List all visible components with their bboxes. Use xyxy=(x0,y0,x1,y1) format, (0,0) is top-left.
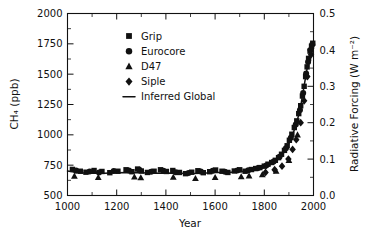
data-point xyxy=(238,173,245,179)
y-tick-label: 1750 xyxy=(37,38,62,49)
plot-frame xyxy=(68,14,314,196)
y-axis-label: CH₄ (ppb) xyxy=(8,79,20,130)
y-axis-right-label: Radiative Forcing (W m⁻²) xyxy=(348,36,360,172)
x-tick-label: 2000 xyxy=(301,201,326,212)
x-axis-tick-labels: 100012001400160018002000 xyxy=(55,201,326,212)
y-tick-label: 1250 xyxy=(37,99,62,110)
inferred-global-curve xyxy=(68,43,314,174)
y-axis-right-tick-labels: 0.00.10.20.30.40.5 xyxy=(320,8,336,201)
series-inferred-global xyxy=(68,43,314,174)
y-tick-label: 2000 xyxy=(37,8,62,19)
legend-label: Grip xyxy=(141,31,162,42)
y-right-tick-label: 0.2 xyxy=(320,117,336,128)
y-tick-label: 1000 xyxy=(37,129,62,140)
y-right-tick-label: 0.4 xyxy=(320,45,336,56)
x-tick-label: 1800 xyxy=(252,201,277,212)
data-point xyxy=(137,174,144,180)
y-right-tick-label: 0.3 xyxy=(320,81,336,92)
legend-label: D47 xyxy=(141,61,161,72)
chart-svg: 100012001400160018002000 500750100012501… xyxy=(0,0,376,249)
legend-marker-circle xyxy=(126,48,132,54)
legend-marker-square xyxy=(126,33,132,39)
x-tick-label: 1200 xyxy=(104,201,129,212)
x-axis-label: Year xyxy=(178,217,202,229)
data-point xyxy=(289,145,295,153)
data-point xyxy=(279,162,285,170)
x-tick-label: 1000 xyxy=(55,201,80,212)
data-series-group xyxy=(68,41,316,182)
legend-label: Siple xyxy=(141,76,165,87)
x-tick-label: 1400 xyxy=(153,201,178,212)
legend-label: Eurocore xyxy=(141,46,185,57)
chart-legend: GripEurocoreD47SipleInferred Global xyxy=(123,31,215,103)
legend-label: Inferred Global xyxy=(141,91,215,102)
data-point xyxy=(212,174,219,180)
data-point xyxy=(192,175,199,181)
y-tick-label: 1500 xyxy=(37,69,62,80)
x-tick-label: 1600 xyxy=(202,201,227,212)
y-tick-label: 750 xyxy=(43,160,62,171)
data-point xyxy=(173,169,179,175)
legend-marker-triangle xyxy=(125,63,132,70)
x-axis-major-ticks xyxy=(68,14,314,196)
data-point xyxy=(294,131,301,137)
series-eurocore xyxy=(73,41,315,176)
legend-marker-diamond xyxy=(126,77,133,85)
y-tick-label: 500 xyxy=(43,190,62,201)
y-right-tick-label: 0.5 xyxy=(320,8,336,19)
y-right-tick-label: 0.0 xyxy=(320,190,336,201)
y-axis-tick-labels: 50075010001250150017502000 xyxy=(37,8,62,201)
y-right-tick-label: 0.1 xyxy=(320,154,336,165)
methane-concentration-chart: 100012001400160018002000 500750100012501… xyxy=(0,0,376,249)
